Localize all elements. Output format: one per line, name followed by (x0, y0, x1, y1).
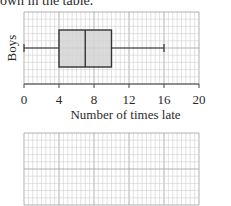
x-tick-label: 12 (123, 92, 136, 107)
box-plot-chart: 048121620 (0, 0, 231, 206)
x-tick-label: 0 (21, 92, 28, 107)
x-axis-label: Number of times late (0, 107, 231, 123)
x-axis: 048121620 (21, 84, 206, 107)
x-tick-label: 4 (56, 92, 63, 107)
x-tick-label: 8 (91, 92, 98, 107)
x-tick-label: 20 (193, 92, 206, 107)
x-tick-label: 16 (158, 92, 172, 107)
answer-grid (24, 133, 199, 205)
box-plot (24, 30, 164, 67)
